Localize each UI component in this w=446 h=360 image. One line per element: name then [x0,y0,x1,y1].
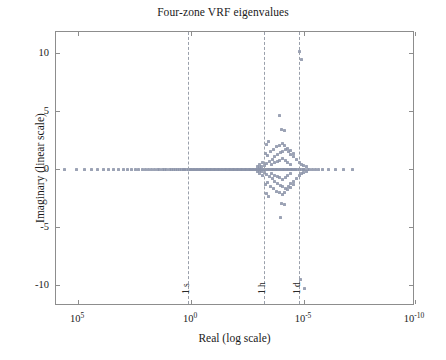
y-tick-right [409,285,413,286]
data-point [305,165,308,168]
data-point [280,202,283,205]
x-tick [78,300,79,304]
data-point [266,181,269,184]
data-point [317,168,320,171]
data-point [279,216,282,219]
data-point [130,168,133,171]
data-point [351,168,354,171]
data-point [90,168,93,171]
y-tick [56,111,60,112]
data-point [305,170,308,173]
data-point [102,168,105,171]
x-axis-label: Real (log scale) [55,332,414,344]
data-point [327,168,330,171]
data-point [321,168,324,171]
data-point [267,195,270,198]
y-tick-right [409,111,413,112]
y-tick [56,53,60,54]
x-tick-top [191,32,192,36]
reference-line-1-d [299,32,300,304]
data-point [265,143,268,146]
x-tick-label: 10-10 [404,313,425,324]
data-point [334,168,337,171]
data-point [256,165,259,168]
data-point [278,114,281,117]
y-axis-label: Imaginary (linear scale) [34,68,46,268]
data-point [63,168,66,171]
data-point [137,168,140,171]
reference-line-1-h [264,32,265,304]
plot-area [55,31,414,305]
y-tick-right [409,227,413,228]
chart-title: Four-zone VRF eigenvalues [0,6,446,18]
data-point [112,168,115,171]
x-tick [304,300,305,304]
data-point [292,183,295,186]
y-tick [56,285,60,286]
data-point [289,186,292,189]
x-tick-label: 100 [183,313,197,324]
y-tick [56,169,60,170]
data-point [265,192,268,195]
data-point [342,168,345,171]
x-tick-label: 105 [70,313,84,324]
data-point [75,168,78,171]
data-point [295,177,298,180]
data-point [283,203,286,206]
data-point [96,168,99,171]
data-point [117,168,120,171]
data-point [271,158,274,161]
reference-label-1-h: 1 h [257,282,267,294]
data-point [289,163,292,166]
x-tick-top [304,32,305,36]
data-point [283,191,286,194]
data-point [126,168,129,171]
data-point [300,58,303,61]
figure-container: Four-zone VRF eigenvalues 10510010-510-1… [0,0,446,360]
y-tick-right [409,169,413,170]
data-point [267,140,270,143]
data-point [303,287,306,290]
data-point [266,154,269,157]
reference-label-1-s: 1 s [181,283,191,294]
x-tick-label: 10-5 [295,313,312,324]
y-tick-right [409,53,413,54]
data-point [256,170,259,173]
data-point [107,168,110,171]
y-tick-label: 10 [11,47,49,58]
x-tick [191,300,192,304]
y-tick [56,227,60,228]
data-point [289,172,292,175]
x-tick-top [415,32,416,36]
data-point [122,168,125,171]
y-tick-label: -10 [11,279,49,290]
x-tick-top [78,32,79,36]
data-point [292,152,295,155]
scatter-data-layer [56,32,413,304]
data-point [283,129,286,132]
data-point [83,168,86,171]
reference-line-1-s [188,32,189,304]
x-tick [415,300,416,304]
reference-label-1-d: 1 d [292,282,302,294]
